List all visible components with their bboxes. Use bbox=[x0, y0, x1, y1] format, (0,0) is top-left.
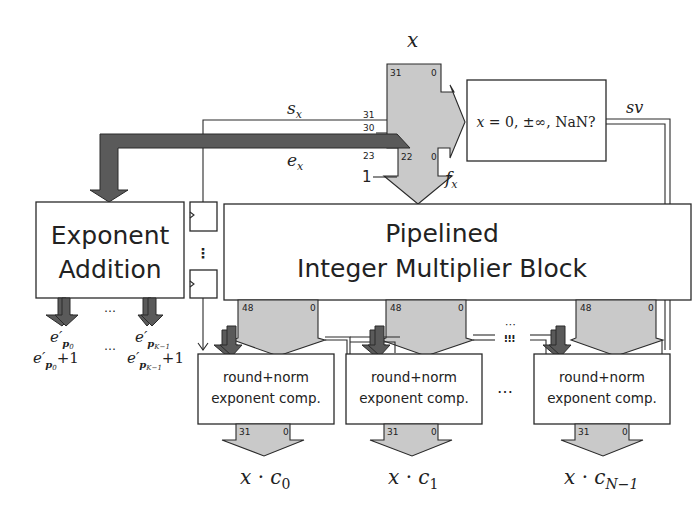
round-unit-1-line2: exponent comp. bbox=[359, 390, 469, 406]
multiplier-line2: Integer Multiplier Block bbox=[297, 254, 587, 283]
special-value-check-label: x = 0, ±∞, NaN? bbox=[477, 114, 596, 130]
implicit-one-label: 1 bbox=[362, 168, 372, 186]
pipeline-register-top bbox=[190, 202, 217, 231]
exponent-addition-line1: Exponent bbox=[51, 221, 170, 250]
register-ellipsis: ⋮ bbox=[196, 245, 210, 261]
exponent-output-arrow-k bbox=[138, 298, 163, 326]
exponent-lo-bit-label: 23 bbox=[363, 151, 374, 161]
ex-label: ex bbox=[287, 150, 304, 173]
svg-text:31: 31 bbox=[387, 427, 398, 437]
svg-text:48: 48 bbox=[390, 303, 402, 313]
svg-text:0: 0 bbox=[648, 303, 654, 313]
fx-label: fx bbox=[443, 168, 458, 191]
fraction-msb-label: 22 bbox=[401, 152, 412, 162]
output-label-0: x · c0 bbox=[240, 465, 290, 492]
output-label-n: x · cN−1 bbox=[564, 465, 638, 492]
round-unit-0-line1: round+norm bbox=[223, 369, 309, 385]
sign-bit-label: 31 bbox=[363, 110, 374, 120]
output-bus-1: 31 0 bbox=[370, 424, 452, 456]
round-norm-unit-0 bbox=[198, 354, 334, 424]
output-bus-0: 31 0 bbox=[222, 424, 304, 456]
exponent-output-ellipsis: … bbox=[104, 301, 116, 315]
bus-ellipsis-grid: ⁝⁝⁝ bbox=[504, 333, 515, 344]
exponent-output-ellipsis-2: … bbox=[104, 339, 116, 353]
svg-text:31: 31 bbox=[239, 427, 250, 437]
exponent-hi-bit-label: 30 bbox=[363, 123, 375, 133]
exponent-output-arrow-0 bbox=[46, 298, 78, 326]
exponent-output-pk-plus-one: e′pK−1+1 bbox=[127, 349, 184, 372]
exponent-output-p0: e′p0 bbox=[50, 328, 74, 351]
bus-ellipsis-top: ⋯ bbox=[505, 318, 516, 331]
round-norm-unit-1 bbox=[346, 354, 482, 424]
round-norm-unit-n bbox=[534, 354, 670, 424]
input-msb-label: 31 bbox=[390, 68, 401, 78]
round-unit-ellipsis: … bbox=[497, 378, 513, 397]
round-unit-1-line1: round+norm bbox=[371, 369, 457, 385]
svg-text:0: 0 bbox=[622, 427, 628, 437]
round-unit-n-line1: round+norm bbox=[559, 369, 645, 385]
exponent-into-round-n bbox=[543, 326, 571, 356]
exponent-addition-line2: Addition bbox=[58, 255, 161, 284]
input-lsb-label: 0 bbox=[431, 68, 437, 78]
product-bus-0: 48 0 bbox=[233, 300, 325, 356]
round-unit-n-line2: exponent comp. bbox=[547, 390, 657, 406]
output-bus-n: 31 0 bbox=[561, 424, 643, 456]
svg-text:48: 48 bbox=[580, 303, 592, 313]
round-unit-0-line2: exponent comp. bbox=[211, 390, 321, 406]
svg-text:31: 31 bbox=[578, 427, 589, 437]
svg-text:0: 0 bbox=[310, 303, 316, 313]
multiplier-line1: Pipelined bbox=[385, 219, 499, 248]
product-bus-n: 48 0 bbox=[571, 300, 663, 356]
svg-text:0: 0 bbox=[458, 303, 464, 313]
exponent-output-pk: e′pK−1 bbox=[135, 328, 170, 351]
svg-text:0: 0 bbox=[431, 427, 437, 437]
svg-text:48: 48 bbox=[242, 303, 254, 313]
svg-text:0: 0 bbox=[283, 427, 289, 437]
sx-label: sx bbox=[287, 98, 303, 121]
fraction-lsb-label: 0 bbox=[431, 152, 437, 162]
fp-constant-multiplier-diagram: x 31 0 22 0 fx 1 sx 31 30 ex 23 x = 0, ±… bbox=[0, 0, 697, 518]
input-x-label: x bbox=[407, 28, 418, 52]
exponent-output-p0-plus-one: e′p0+1 bbox=[33, 349, 79, 372]
sv-label: sv bbox=[626, 98, 643, 117]
output-label-1: x · c1 bbox=[388, 465, 438, 492]
